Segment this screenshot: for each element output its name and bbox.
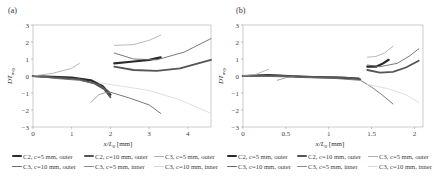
panel-a-frame: [33, 25, 211, 127]
legend-item: C3, c=5 mm, outer: [368, 153, 429, 160]
series-line: [114, 57, 160, 63]
y-tick-label: −2: [232, 107, 240, 115]
legend-item: C3, c=10 mm, inner: [368, 163, 432, 170]
x-tick-label: 2: [413, 130, 417, 138]
legend-item: C2, c=10 mm, outer: [297, 153, 361, 160]
panel-a-curves: [33, 35, 211, 113]
legend-swatch: [84, 155, 94, 157]
panel-b-xlabel: x/L0 [mm]: [315, 140, 345, 149]
x-tick-label: 0: [31, 130, 35, 138]
legend-swatch: [297, 155, 307, 157]
legend-label: C3, c=5 mm, inner: [308, 163, 358, 170]
legend-label: C2, c=5 mm, outer: [238, 153, 288, 160]
y-tick-label: 1: [26, 56, 30, 64]
panel-a-xlabel: x/L0 [mm]: [103, 140, 133, 149]
y-tick-label: 2: [26, 39, 30, 47]
y-tick-label: −1: [232, 90, 240, 98]
panel-b-label: (b): [236, 6, 246, 15]
legend-label: C3, c=10 mm, outer: [238, 163, 291, 170]
legend-label: C2, c=10 mm, outer: [95, 153, 148, 160]
legend-label: C2, c=5 mm, outer: [23, 153, 73, 160]
panel-b-curves: [243, 46, 419, 104]
legend-item: C2, c=5 mm, outer: [12, 153, 73, 160]
panel-a-label: (a): [8, 6, 17, 15]
y-tick-label: −3: [232, 124, 240, 132]
series-line: [33, 76, 110, 97]
y-tick-label: 3: [236, 22, 240, 30]
y-tick-label: −1: [22, 90, 30, 98]
x-tick-label: 2: [109, 130, 113, 138]
panel-a: (a) 01234−3−2−10123 x/L0 [mm] DTavg: [6, 6, 211, 149]
series-line: [114, 39, 211, 60]
legend-swatch: [154, 156, 164, 157]
legend-label: C2, c=10 mm, outer: [308, 153, 361, 160]
panel-b-ticks: 00.511.52−3−2−10123: [232, 22, 417, 139]
legend-label: C3, c=10 mm, inner: [165, 163, 218, 170]
series-line: [114, 35, 160, 45]
x-tick-label: 4: [186, 130, 190, 138]
legend-item: C3, c=5 mm, inner: [84, 163, 145, 170]
legend-item: C3, c=5 mm, outer: [154, 153, 215, 160]
legend-swatch: [154, 166, 164, 167]
x-tick-label: 0: [241, 130, 245, 138]
y-tick-label: 1: [236, 56, 240, 64]
legend-row: C3, c=10 mm, outerC3, c=5 mm, innerC3, c…: [0, 161, 437, 171]
legend-swatch: [227, 155, 237, 157]
legend-item: C3, c=10 mm, outer: [227, 163, 291, 170]
y-tick-label: 0: [236, 73, 240, 81]
legend-label: C3, c=10 mm, inner: [379, 163, 432, 170]
y-tick-label: 3: [26, 22, 30, 30]
y-tick-label: −3: [22, 124, 30, 132]
legend-item: C2, c=10 mm, outer: [84, 153, 148, 160]
legend-swatch: [368, 166, 378, 167]
legend-label: C3, c=5 mm, inner: [95, 163, 145, 170]
panel-a-ticks: 01234−3−2−10123: [22, 22, 190, 139]
x-tick-label: 3: [147, 130, 151, 138]
x-tick-label: 1: [70, 130, 74, 138]
legend-swatch: [297, 166, 307, 167]
x-tick-label: 1.5: [367, 130, 376, 138]
legend-item: C3, c=10 mm, inner: [154, 163, 218, 170]
legend: C2, c=5 mm, outerC2, c=10 mm, outerC3, c…: [0, 151, 437, 171]
panel-b-ylabel: DTavg: [217, 67, 226, 85]
legend-item: C3, c=10 mm, outer: [12, 163, 76, 170]
figure: (a) 01234−3−2−10123 x/L0 [mm] DTavg (b) …: [0, 0, 437, 150]
legend-swatch: [84, 166, 94, 167]
legend-label: C3, c=5 mm, outer: [165, 153, 215, 160]
series-line: [33, 76, 161, 113]
series-line: [243, 76, 393, 104]
panel-b: (b) 00.511.52−3−2−10123 x/L0 [mm] DTavg: [217, 6, 423, 149]
y-tick-label: 0: [26, 73, 30, 81]
x-tick-label: 0.5: [281, 130, 290, 138]
legend-swatch: [368, 156, 378, 157]
legend-label: C3, c=5 mm, outer: [379, 153, 429, 160]
series-line: [33, 63, 79, 76]
legend-item: C3, c=5 mm, inner: [297, 163, 358, 170]
x-tick-label: 1: [327, 130, 331, 138]
series-line: [367, 85, 418, 103]
series-line: [367, 46, 393, 57]
panel-a-ylabel: DTavg: [6, 67, 15, 85]
legend-row: C2, c=5 mm, outerC2, c=10 mm, outerC3, c…: [0, 151, 437, 161]
legend-label: C3, c=10 mm, outer: [23, 163, 76, 170]
legend-swatch: [12, 166, 22, 167]
y-tick-label: 2: [236, 39, 240, 47]
legend-swatch: [12, 155, 22, 157]
y-tick-label: −2: [22, 107, 30, 115]
legend-item: C2, c=5 mm, outer: [227, 153, 288, 160]
series-line: [277, 77, 294, 81]
legend-swatch: [227, 166, 237, 167]
